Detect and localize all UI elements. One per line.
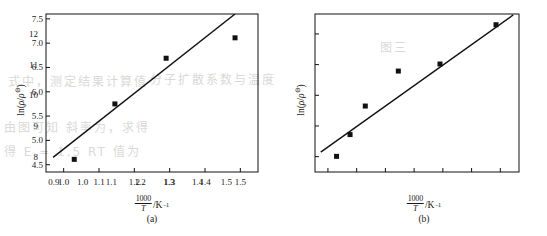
- x-tick-label: 1.5: [221, 177, 232, 187]
- y-tick-label: 9: [19, 121, 38, 131]
- x-title-numerator: 1000: [407, 195, 424, 203]
- y-title-rho: ρ: [296, 101, 306, 106]
- x-title-unit-exponent: -1: [435, 201, 441, 209]
- y-tick-label: 10: [19, 90, 38, 100]
- x-title-fraction: 1000 T: [407, 195, 424, 213]
- x-tick-label: 1.2: [135, 177, 146, 187]
- x-tick-label: 1.0: [58, 177, 69, 187]
- x-title-unit-exponent: -1: [163, 201, 169, 209]
- x-title-unit: /K: [425, 200, 435, 210]
- x-title-denominator: T: [141, 204, 146, 213]
- panel-caption-b: (b): [418, 214, 429, 224]
- y-title-rho2: ρ: [296, 93, 306, 98]
- y-tick-label: 11: [19, 60, 38, 70]
- y-tick-label: 8: [19, 152, 38, 162]
- x-tick-label: 0.9: [48, 177, 59, 187]
- y-tick-label: 7.0: [24, 38, 43, 48]
- x-title-unit: /K: [153, 200, 163, 210]
- chart-panel-a: 1.01.11.21.31.41.5 4.55.05.56.06.57.07.5…: [0, 0, 274, 236]
- y-tick-label: 5.0: [24, 135, 43, 145]
- y-title-suffix: ): [296, 84, 306, 87]
- y-title-rho: ρ: [16, 101, 26, 106]
- chart-panel-b: 0.91.01.11.21.31.41.5 89101112 ln(ρ/ρ⊖) …: [274, 0, 547, 236]
- y-title-prefix: ln(: [16, 105, 26, 116]
- y-tick-label: 7.5: [24, 14, 43, 24]
- x-axis-title-a: 1000 T /K-1: [135, 196, 170, 214]
- x-tick-label: 1.5: [235, 177, 246, 187]
- figure-container: 1.01.11.21.31.41.5 4.55.05.56.06.57.07.5…: [0, 0, 547, 236]
- y-title-suffix: ): [16, 84, 26, 87]
- x-tick-label: 1.4: [192, 177, 203, 187]
- x-axis-title-b: 1000 T /K-1: [407, 196, 442, 214]
- y-title-prefix: ln(: [296, 105, 306, 116]
- y-tick-label: 12: [19, 29, 38, 39]
- x-title-fraction: 1000 T: [135, 195, 152, 213]
- y-title-standard-state-symbol: ⊖: [294, 87, 302, 93]
- y-title-slash: /: [296, 98, 306, 101]
- x-tick-label: 1.1: [106, 177, 117, 187]
- x-title-denominator: T: [413, 204, 418, 213]
- y-tick-label: 5.5: [24, 111, 43, 121]
- x-tick-label: 1.0: [77, 177, 88, 187]
- x-tick-label: 1.1: [93, 177, 104, 187]
- x-tick-label: 1.3: [163, 177, 174, 187]
- x-title-numerator: 1000: [135, 195, 152, 203]
- y-axis-title-b: ln(ρ/ρ⊖): [294, 84, 306, 116]
- panel-caption-a: (a): [147, 214, 158, 224]
